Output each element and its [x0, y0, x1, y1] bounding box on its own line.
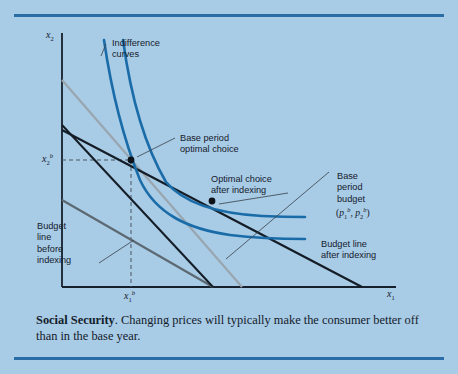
annotation-base-period-budget: Base period budget: [337, 171, 365, 205]
point-base-period-optimal-choice: [128, 157, 135, 164]
annotation-base-period-budget-prices: (p1b, p2b): [336, 206, 370, 220]
annotation-indifference-curves: Indifference curves: [112, 38, 160, 61]
figure-social-security: x2 x1 x2b x1b Indifference curves Base p…: [0, 0, 458, 374]
x-axis-tick-label-x1b: x1b: [124, 289, 135, 303]
y-axis-label: x2: [46, 29, 54, 42]
annotation-base-period-optimal-choice: Base period optimal choice: [180, 133, 239, 156]
point-optimal-choice-after-indexing: [209, 198, 216, 205]
figure-caption: Social Security. Changing prices will ty…: [36, 312, 430, 345]
annotation-budget-line-before-indexing: Budget line before indexing: [37, 221, 71, 266]
annotation-budget-line-after-indexing: Budget line after indexing: [321, 239, 376, 262]
y-axis-tick-label-x2b: x2b: [42, 152, 53, 166]
annotation-optimal-choice-after-indexing: Optimal choice after indexing: [211, 174, 272, 197]
dashed-guides: [62, 160, 131, 287]
caption-title: Social Security: [36, 313, 115, 327]
x-axis-label: x1: [387, 288, 395, 301]
leader-base-period-optimal: [137, 138, 175, 157]
budget-line-before-indexing-line: [62, 200, 213, 287]
leader-budget-line-before: [99, 240, 134, 263]
